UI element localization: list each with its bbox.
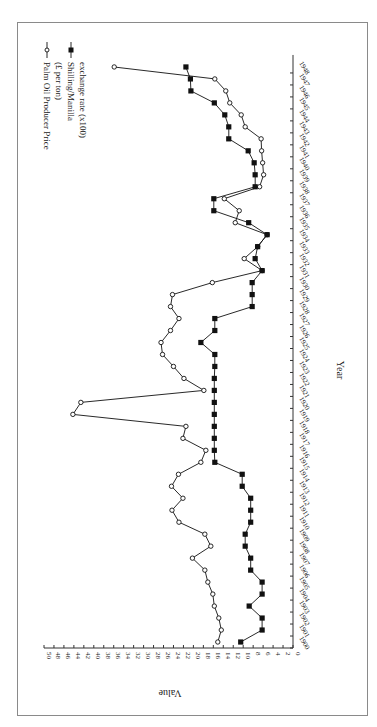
value-tick-label: 42 xyxy=(84,652,92,660)
filled-square-marker xyxy=(212,316,217,321)
open-circle-marker xyxy=(206,580,210,584)
filled-square-marker xyxy=(212,388,217,393)
filled-square-marker xyxy=(238,639,243,644)
open-circle-marker xyxy=(222,197,226,201)
filled-square-marker xyxy=(212,460,217,465)
open-circle-marker xyxy=(210,280,214,284)
axes: 0246810121416182022242628303234363840424… xyxy=(44,55,311,660)
value-tick-label: 10 xyxy=(244,652,252,660)
open-circle-marker xyxy=(184,424,188,428)
filled-square-marker xyxy=(212,352,217,357)
filled-square-marker xyxy=(212,412,217,417)
filled-square-marker xyxy=(250,304,255,309)
open-circle-marker xyxy=(202,388,206,392)
open-circle-marker xyxy=(112,65,116,69)
open-circle-marker xyxy=(71,412,75,416)
value-tick-label: 6 xyxy=(264,652,272,656)
open-circle-marker xyxy=(182,376,186,380)
open-circle-marker xyxy=(212,604,216,608)
value-tick-label: 48 xyxy=(54,652,62,660)
value-tick-label: 12 xyxy=(234,652,242,660)
filled-square-marker xyxy=(253,256,258,261)
open-circle-marker xyxy=(199,460,203,464)
value-tick-label: 8 xyxy=(254,652,262,656)
filled-square-marker xyxy=(212,328,217,333)
open-circle-marker xyxy=(169,484,173,488)
open-circle-marker xyxy=(213,77,217,81)
open-circle-marker xyxy=(257,185,261,189)
series-line xyxy=(73,67,267,642)
open-circle-marker xyxy=(168,304,172,308)
filled-square-marker xyxy=(248,556,253,561)
series-exchange-rate xyxy=(183,64,269,644)
legend-label-exchange-rate-unit: exchange rate (x100) xyxy=(78,62,88,138)
filled-square-marker xyxy=(212,100,217,105)
filled-square-marker xyxy=(198,340,203,345)
open-circle-marker xyxy=(170,508,174,512)
open-circle-marker xyxy=(177,316,181,320)
open-circle-marker xyxy=(228,101,232,105)
open-circle-marker xyxy=(181,436,185,440)
open-circle-marker xyxy=(211,592,215,596)
filled-square-marker xyxy=(260,580,265,585)
open-circle-marker xyxy=(239,113,243,117)
filled-square-marker xyxy=(240,484,245,489)
filled-square-marker xyxy=(247,603,252,608)
value-tick-label: 22 xyxy=(184,652,192,660)
open-circle-marker xyxy=(171,364,175,368)
value-tick-label: 38 xyxy=(104,652,112,660)
open-circle-marker xyxy=(259,149,263,153)
filled-square-marker xyxy=(212,436,217,441)
legend-label-exchange-rate: Shilling/Manilla xyxy=(66,62,76,121)
open-circle-marker xyxy=(224,89,228,93)
value-tick-label: 46 xyxy=(64,652,72,660)
filled-square-marker xyxy=(260,627,265,632)
filled-square-marker xyxy=(265,232,270,237)
y-axis-label: Value xyxy=(158,688,181,699)
series-group xyxy=(71,64,270,644)
value-tick-label: 2 xyxy=(284,652,292,656)
filled-square-marker xyxy=(212,400,217,405)
filled-square-marker xyxy=(253,184,258,189)
filled-square-marker xyxy=(226,124,231,129)
open-circle-marker xyxy=(176,472,180,476)
open-circle-marker xyxy=(243,125,247,129)
filled-square-marker xyxy=(260,591,265,596)
value-tick-label: 36 xyxy=(114,652,122,660)
filled-square-marker xyxy=(243,532,248,537)
filled-square-marker xyxy=(250,280,255,285)
legend: Palm Oil Producer Price(£ per ton)Shilli… xyxy=(42,42,88,150)
value-tick-label: 16 xyxy=(214,652,222,660)
filled-square-marker xyxy=(246,220,251,225)
filled-square-marker xyxy=(183,64,188,69)
filled-square-marker xyxy=(248,568,253,573)
filled-square-marker xyxy=(226,136,231,141)
legend-filled-square-icon xyxy=(69,48,74,53)
filled-square-marker xyxy=(188,88,193,93)
value-tick-label: 30 xyxy=(144,652,152,660)
open-circle-marker xyxy=(177,520,181,524)
filled-square-marker xyxy=(253,172,258,177)
value-tick-label: 32 xyxy=(134,652,142,660)
filled-square-marker xyxy=(248,520,253,525)
open-circle-marker xyxy=(216,640,220,644)
filled-square-marker xyxy=(222,112,227,117)
filled-square-marker xyxy=(252,160,257,165)
open-circle-marker xyxy=(79,400,83,404)
open-circle-marker xyxy=(159,340,163,344)
filled-square-marker xyxy=(243,544,248,549)
value-tick-label: 18 xyxy=(204,652,212,660)
filled-square-marker xyxy=(212,448,217,453)
open-circle-marker xyxy=(237,209,241,213)
filled-square-marker xyxy=(212,376,217,381)
value-tick-label: 44 xyxy=(74,652,82,660)
value-tick-label: 50 xyxy=(45,652,53,660)
filled-square-marker xyxy=(248,508,253,513)
open-circle-marker xyxy=(242,256,246,260)
open-circle-marker xyxy=(259,137,263,141)
filled-square-marker xyxy=(212,364,217,369)
open-circle-marker xyxy=(160,352,164,356)
open-circle-marker xyxy=(190,556,194,560)
open-circle-marker xyxy=(203,568,207,572)
value-tick-label: 14 xyxy=(224,652,232,660)
